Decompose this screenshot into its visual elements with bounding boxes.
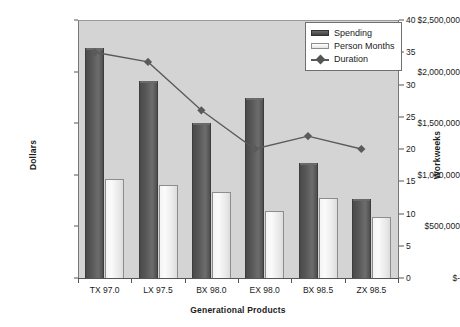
- x-axis-tick-mark: [398, 278, 399, 283]
- y-axis-right-tick-mark: [399, 116, 404, 117]
- bar-person-months: [372, 217, 391, 278]
- legend-label-duration: Duration: [334, 53, 368, 66]
- y-axis-right-tick-label: 35: [406, 48, 446, 57]
- bar-person-months: [105, 179, 124, 278]
- legend-swatch-spending: [311, 27, 329, 40]
- legend: Spending Person Months Duration: [305, 22, 402, 71]
- y-axis-right-tick-mark: [399, 149, 404, 150]
- y-axis-right-tick-mark: [399, 181, 404, 182]
- y-axis-right-tick-label: 40: [406, 16, 446, 25]
- bar-spending: [192, 123, 211, 278]
- y-axis-right-tick-mark: [399, 213, 404, 214]
- legend-item-spending: Spending: [311, 27, 395, 40]
- y-axis-right-tick-label: 0: [406, 274, 446, 283]
- y-axis-right-tick-label: 30: [406, 80, 446, 89]
- bar-spending: [245, 98, 264, 278]
- x-axis-category-label: BX 98.5: [288, 286, 348, 295]
- y-axis-right-title: Workweeks: [432, 110, 442, 200]
- bar-spending: [299, 163, 318, 278]
- x-axis-tick-mark: [345, 278, 346, 283]
- x-axis-category-label: ZX 98.5: [341, 286, 401, 295]
- y-axis-left-tick-mark: [74, 226, 78, 227]
- y-axis-right-tick-mark: [399, 245, 404, 246]
- bar-person-months: [265, 211, 284, 278]
- legend-label-spending: Spending: [334, 27, 372, 40]
- legend-item-duration: Duration: [311, 53, 395, 66]
- x-axis-category-label: LX 97.5: [128, 286, 188, 295]
- bar-spending: [85, 48, 104, 278]
- y-axis-right-tick-label: 5: [406, 242, 446, 251]
- bar-person-months: [212, 192, 231, 278]
- legend-swatch-duration: [311, 53, 329, 66]
- x-axis-category-label: TX 97.0: [75, 286, 135, 295]
- x-axis-tick-mark: [78, 278, 79, 283]
- y-axis-left-tick-label: $500,000: [386, 222, 460, 231]
- x-axis-tick-mark: [185, 278, 186, 283]
- y-axis-right-tick-mark: [399, 20, 404, 21]
- y-axis-right-tick-mark: [399, 84, 404, 85]
- legend-swatch-person-months: [311, 40, 329, 53]
- bar-person-months: [159, 185, 178, 278]
- x-axis-tick-mark: [291, 278, 292, 283]
- y-axis-left-tick-mark: [74, 123, 78, 124]
- bar-spending: [352, 199, 371, 278]
- x-axis-category-label: BX 98.0: [181, 286, 241, 295]
- chart-container: $-$500,000$1,000,000$1,500,000$2,000,000…: [0, 0, 460, 327]
- y-axis-right-tick-label: 10: [406, 209, 446, 218]
- x-axis-category-label: EX 98.0: [235, 286, 295, 295]
- bar-spending: [139, 81, 158, 278]
- y-axis-right-tick-mark: [399, 278, 404, 279]
- x-axis-title: Generational Products: [78, 305, 398, 315]
- legend-label-person-months: Person Months: [334, 40, 395, 53]
- y-axis-left-tick-mark: [74, 71, 78, 72]
- x-axis-tick-mark: [131, 278, 132, 283]
- x-axis-tick-mark: [238, 278, 239, 283]
- y-axis-left-title: Dollars: [28, 110, 38, 200]
- y-axis-left-tick-mark: [74, 20, 78, 21]
- bar-person-months: [319, 198, 338, 278]
- legend-item-person-months: Person Months: [311, 40, 395, 53]
- y-axis-left-tick-mark: [74, 174, 78, 175]
